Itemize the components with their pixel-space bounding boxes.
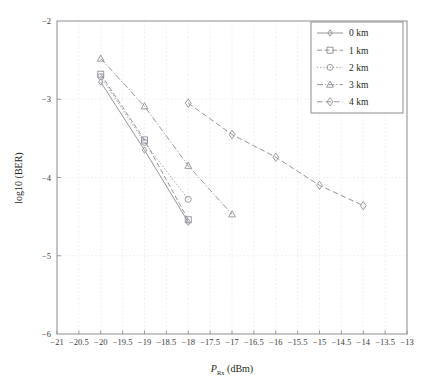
x-tick-label: −13 — [400, 337, 413, 347]
legend-label: 0 km — [349, 28, 369, 38]
x-tick-label: −16 — [269, 337, 282, 347]
x-tick-label: −18.5 — [157, 337, 177, 347]
x-tick-label: −19.5 — [113, 337, 133, 347]
y-axis-title: log10 (BER) — [13, 152, 25, 203]
x-tick-label: −20.5 — [69, 337, 89, 347]
x-tick-label: −20 — [94, 337, 107, 347]
x-tick-label: −18 — [182, 337, 195, 347]
chart-legend: 0 km1 km2 km3 km4 km — [311, 22, 403, 113]
ber-vs-prx-line-chart: −21−20.5−20−19.5−19−18.5−18−17.5−17−16.5… — [0, 0, 432, 389]
x-tick-label: −16.5 — [244, 337, 264, 347]
svg-text:PRx (dBm): PRx (dBm) — [210, 363, 253, 376]
y-tick-label: −5 — [42, 251, 51, 261]
y-tick-label: −3 — [42, 94, 51, 104]
x-tick-label: −15 — [313, 337, 326, 347]
x-tick-label: −19 — [138, 337, 151, 347]
x-tick-label: −14 — [357, 337, 371, 347]
x-tick-label: −21 — [50, 337, 63, 347]
x-tick-label: −14.5 — [332, 337, 352, 347]
chart-figure: −21−20.5−20−19.5−19−18.5−18−17.5−17−16.5… — [0, 0, 432, 389]
x-tick-label: −13.5 — [375, 337, 395, 347]
x-axis-title: PRx (dBm) — [210, 363, 253, 376]
x-tick-label: −15.5 — [288, 337, 308, 347]
legend-label: 4 km — [349, 97, 369, 107]
y-tick-label: −4 — [42, 173, 52, 183]
y-tick-label: −6 — [42, 329, 51, 339]
y-tick-label: −2 — [42, 16, 51, 26]
legend-label: 3 km — [349, 80, 369, 90]
legend-label: 1 km — [349, 46, 369, 56]
svg-text:log10 (BER): log10 (BER) — [13, 152, 25, 203]
x-tick-label: −17 — [225, 337, 238, 347]
legend-label: 2 km — [349, 63, 369, 73]
x-axis-tick-labels: −21−20.5−20−19.5−19−18.5−18−17.5−17−16.5… — [50, 337, 413, 347]
x-tick-label: −17.5 — [200, 337, 220, 347]
